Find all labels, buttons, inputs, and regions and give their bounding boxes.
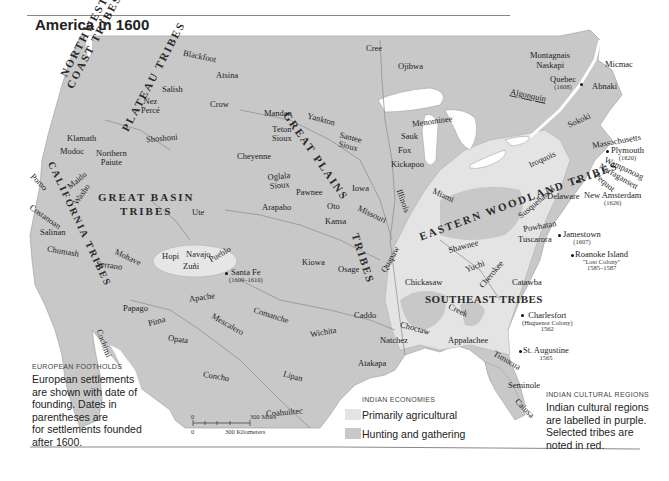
tribe-hopi: Hopi: [162, 252, 179, 261]
tribe-atsina: Atsina: [216, 71, 238, 80]
legend-european-heading: EUROPEAN FOOTHOLDS: [32, 363, 122, 370]
tribe-oto: Oto: [327, 202, 340, 211]
settlement-marker-roanoke: [571, 254, 574, 257]
legend-line: Indian cultural regions: [546, 401, 649, 414]
tribe-kickapoo: Kickapoo: [391, 160, 424, 169]
settlement-marker-new-amsterdam: [576, 180, 579, 183]
tribe-cheyenne: Cheyenne: [237, 152, 271, 161]
tribe-seminole: Seminole: [508, 381, 540, 390]
tribe-line: Montagnais: [530, 50, 570, 60]
legend-line: founding. Dates in: [32, 398, 142, 411]
settlement-date: (1609–1610): [229, 277, 263, 284]
legend-economies-heading: INDIAN ECONOMIES: [362, 396, 435, 403]
tribe-mandan: Mandan: [264, 109, 292, 118]
settlement-date: (1607): [563, 239, 601, 246]
region-line: TRIBES: [120, 205, 172, 217]
tribe-appalachee: Appalachee: [448, 336, 488, 345]
scale-km: 300 Kilometers: [225, 428, 265, 435]
tribe-pawnee: Pawnee: [296, 188, 322, 197]
tribe-tuscarora: Tuscarora: [518, 235, 552, 244]
tribe-line: Naskapi: [536, 60, 564, 70]
settlement-date: 1565: [523, 355, 569, 362]
legend-line: noted in red.: [546, 439, 649, 452]
settlement-st-augustine: St. Augustine1565: [523, 346, 569, 361]
region-great-basin: GREAT BASIN TRIBES: [98, 190, 194, 218]
tribe-line: Sioux: [269, 179, 290, 191]
settlement-roanoke: Roanoke Island"Lost Colony"1585–1587: [575, 250, 628, 272]
tribe-natchez: Natchez: [380, 336, 408, 345]
tribe-kansa: Kansa: [325, 217, 346, 226]
tribe-teton-sioux: TetonSioux: [272, 125, 292, 143]
legend-line: after 1600.: [32, 436, 142, 449]
settlement-quebec: Quebec(1608): [550, 75, 576, 90]
tribe-sauk: Sauk: [401, 132, 418, 141]
tribe-chickasaw: Chickasaw: [405, 278, 442, 287]
legend-cultural-heading: INDIAN CULTURAL REGIONS: [546, 391, 649, 398]
settlement-date: 1585–1587: [575, 265, 628, 272]
tribe-crow: Crow: [210, 100, 229, 109]
legend-line: for settlements founded: [32, 423, 142, 436]
tribe-northern-paiute: NorthernPaiute: [96, 149, 127, 167]
scale-miles: 300 Miles: [250, 413, 276, 420]
scale-zero-km: 0: [191, 428, 194, 435]
tribe-fox: Fox: [398, 146, 411, 155]
settlement-date: (1620): [611, 155, 644, 162]
settlement-marker-plymouth: [606, 150, 609, 153]
settlement-marker-quebec: [580, 83, 583, 86]
tribe-line: Sioux: [272, 133, 292, 143]
settlement-date: 1562: [522, 326, 573, 333]
tribe-klamath: Klamath: [67, 134, 96, 143]
tribe-line: Percé: [141, 105, 160, 115]
legend-line: European settlements: [32, 373, 142, 386]
settlement-jamestown: Jamestown(1607): [563, 230, 601, 245]
tribe-zuni: Zuñi: [183, 262, 199, 271]
settlement-date: (1608): [550, 84, 576, 91]
legend-swatch-agricultural: [345, 409, 361, 420]
tribe-oglala-sioux: OglalaSioux: [267, 171, 291, 191]
region-line: GREAT BASIN: [98, 191, 194, 203]
tribe-montagnais-naskapi: MontagnaisNaskapi: [530, 50, 570, 70]
tribe-cree: Cree: [366, 44, 382, 53]
region-southeast: SOUTHEAST TRIBES: [425, 294, 543, 305]
tribe-papago: Papago: [123, 304, 148, 313]
tribe-modoc: Modoc: [60, 147, 84, 156]
scale-zero-miles: 0: [191, 413, 194, 420]
legend-european-text: European settlements are shown with date…: [32, 373, 142, 448]
settlement-plymouth: Plymouth(1620): [611, 146, 644, 161]
settlement-marker-jamestown: [558, 234, 561, 237]
legend-line: parentheses are: [32, 411, 142, 424]
tribe-salish: Salish: [162, 85, 183, 94]
tribe-caddo: Caddo: [354, 311, 376, 320]
legend-cultural-text: Indian cultural regions are labelled in …: [546, 401, 649, 451]
tribe-line: Paiute: [101, 157, 122, 167]
tribe-abnaki: Abnaki: [592, 82, 617, 91]
settlement-marker-st-augustine: [519, 350, 522, 353]
legend-economies-hunting: Hunting and gathering: [362, 428, 465, 441]
settlement-santa-fe: Santa Fe(1609–1610): [229, 268, 263, 283]
tribe-atakapa: Atakapa: [358, 359, 386, 368]
legend-line: are shown with date of: [32, 386, 142, 399]
tribe-catawba: Catawba: [512, 278, 542, 287]
tribe-nez-perce: NezPercé: [141, 97, 160, 115]
tribe-ute: Ute: [192, 208, 204, 217]
legend-economies-agricultural: Primarily agricultural: [362, 409, 457, 422]
tribe-arapaho: Arapaho: [262, 203, 291, 212]
settlement-charlesfort: Charlesfort(Huguenot Colony)1562: [522, 311, 573, 333]
tribe-osage: Osage: [338, 265, 359, 274]
tribe-ojibwa: Ojibwa: [398, 62, 423, 71]
settlement-new-amsterdam: New Amsterdam(1626): [584, 191, 641, 206]
tribe-kiowa: Kiowa: [302, 258, 325, 267]
tribe-salinan: Salinan: [40, 228, 66, 237]
legend-swatch-hunting: [345, 428, 361, 439]
settlement-date: (1626): [584, 200, 641, 207]
legend-line: Selected tribes are: [546, 426, 649, 439]
settlement-marker-santa-fe: [225, 272, 228, 275]
tribe-iowa: Iowa: [352, 184, 369, 193]
legend-line: are labelled in purple.: [546, 414, 649, 427]
tribe-micmac: Micmac: [605, 60, 633, 69]
